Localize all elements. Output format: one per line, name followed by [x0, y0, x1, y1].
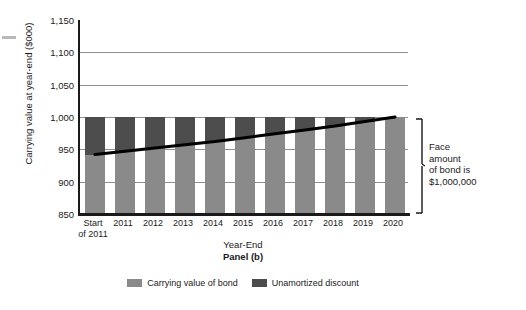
bar-group — [385, 20, 405, 214]
bar-stack — [235, 20, 255, 214]
bar-stack — [115, 20, 135, 214]
bar-stack — [325, 20, 345, 214]
bar-segment-carrying-value — [115, 151, 135, 214]
bar-segment-unamortized-discount — [295, 117, 315, 130]
bar-segment-carrying-value — [295, 130, 315, 214]
x-axis-line — [78, 213, 410, 216]
bar-stack — [295, 20, 315, 214]
plot-inner — [80, 20, 408, 214]
bar-segment-carrying-value — [385, 117, 405, 214]
bar-group — [145, 20, 165, 214]
legend-swatch-icon — [127, 279, 142, 287]
legend-item: Carrying value of bond — [127, 278, 238, 288]
bar-segment-carrying-value — [325, 126, 345, 214]
bar-segment-carrying-value — [145, 148, 165, 214]
bar-group — [265, 20, 285, 214]
bar-group — [325, 20, 345, 214]
bar-stack — [175, 20, 195, 214]
bar-group — [85, 20, 105, 214]
y-axis-tick-label: 900 — [34, 178, 74, 187]
x-axis-tick-label: 2020 — [369, 218, 417, 229]
bar-group — [205, 20, 225, 214]
bar-segment-unamortized-discount — [175, 117, 195, 145]
bar-segment-carrying-value — [205, 142, 225, 214]
y-axis-tick-label: 1,050 — [34, 81, 74, 90]
bar-stack — [85, 20, 105, 214]
chart-figure: Carrying value at year-end ($000) 850900… — [0, 0, 526, 310]
bar-segment-unamortized-discount — [85, 117, 105, 155]
bar-group — [115, 20, 135, 214]
bar-stack — [145, 20, 165, 214]
bar-segment-unamortized-discount — [115, 117, 135, 151]
page-margin-rule — [2, 36, 16, 39]
chart-legend: Carrying value of bondUnamortized discou… — [78, 278, 408, 288]
bar-group — [175, 20, 195, 214]
bar-stack — [355, 20, 375, 214]
bar-segment-carrying-value — [265, 134, 285, 214]
bar-segment-unamortized-discount — [265, 117, 285, 134]
bar-stack — [265, 20, 285, 214]
legend-label: Carrying value of bond — [147, 278, 238, 288]
plot-area — [78, 20, 408, 214]
legend-swatch-icon — [252, 279, 267, 287]
x-axis-title: Year-End — [78, 239, 408, 250]
bar-segment-carrying-value — [355, 122, 375, 214]
y-axis-tick-label: 1,150 — [34, 16, 74, 25]
bar-segment-unamortized-discount — [355, 117, 375, 122]
bar-segment-unamortized-discount — [325, 117, 345, 126]
bar-segment-carrying-value — [175, 145, 195, 214]
bar-segment-unamortized-discount — [145, 117, 165, 148]
bar-segment-unamortized-discount — [235, 117, 255, 138]
legend-label: Unamortized discount — [272, 278, 359, 288]
legend-item: Unamortized discount — [252, 278, 359, 288]
y-axis-tick-label: 950 — [34, 145, 74, 154]
bar-stack — [205, 20, 225, 214]
panel-title: Panel (b) — [78, 251, 408, 262]
bar-group — [235, 20, 255, 214]
face-amount-bracket-icon — [415, 118, 425, 214]
bar-segment-unamortized-discount — [205, 117, 225, 142]
y-axis-tick-label: 1,000 — [34, 113, 74, 122]
y-axis-tick-label: 850 — [34, 210, 74, 219]
y-axis-tick-label: 1,100 — [34, 48, 74, 57]
bar-group — [295, 20, 315, 214]
bar-segment-carrying-value — [85, 155, 105, 214]
bar-stack — [385, 20, 405, 214]
bar-group — [355, 20, 375, 214]
y-axis-tick-labels: 8509009501,0001,0501,1001,150 — [30, 20, 74, 214]
bar-segment-carrying-value — [235, 138, 255, 214]
face-amount-annotation: Face amount of bond is $1,000,000 — [429, 141, 477, 187]
